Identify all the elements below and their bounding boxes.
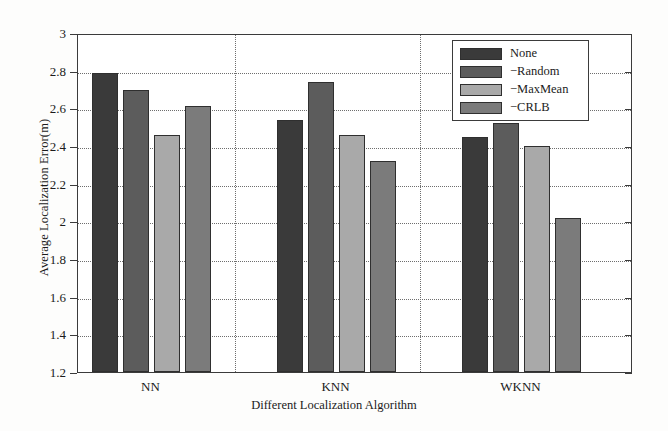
y-tick-label: 1.8	[26, 253, 66, 266]
legend-label: None	[510, 47, 537, 60]
bar	[462, 137, 488, 372]
y-tick-mark	[70, 335, 77, 336]
y-tick-label: 2	[26, 215, 66, 228]
y-tick-mark	[70, 147, 77, 148]
y-tick-mark-right	[625, 298, 632, 299]
legend-label: −MaxMean	[510, 83, 568, 96]
legend-swatch-icon	[460, 84, 502, 96]
y-tick-label: 2.4	[26, 140, 66, 153]
y-tick-mark-right	[625, 373, 632, 374]
legend-swatch-icon	[460, 102, 502, 114]
bar	[185, 106, 211, 372]
y-tick-mark-right	[625, 72, 632, 73]
gridline-vertical	[235, 35, 236, 372]
legend-item[interactable]: −Random	[460, 64, 582, 79]
legend-label: −Random	[510, 65, 559, 78]
y-tick-mark	[70, 222, 77, 223]
bar	[339, 135, 365, 372]
legend-item[interactable]: −CRLB	[460, 100, 582, 115]
y-tick-label: 1.6	[26, 291, 66, 304]
y-tick-mark	[70, 34, 77, 35]
legend-item[interactable]: None	[460, 46, 582, 61]
x-tick-label-knn: KNN	[291, 379, 381, 395]
y-tick-label: 1.2	[26, 366, 66, 379]
y-tick-label: 3	[26, 27, 66, 40]
legend-item[interactable]: −MaxMean	[460, 82, 582, 97]
figure-canvas: Average Localization Error(m) 1.21.41.61…	[0, 0, 668, 431]
x-axis-title: Different Localization Algorithm	[0, 398, 668, 413]
bar	[555, 218, 581, 372]
gridline-vertical	[420, 35, 421, 372]
y-tick-mark-right	[625, 335, 632, 336]
legend-swatch-icon	[460, 66, 502, 78]
y-tick-mark-right	[625, 222, 632, 223]
bar	[123, 90, 149, 373]
y-tick-mark	[70, 298, 77, 299]
y-tick-mark-right	[625, 260, 632, 261]
y-tick-label: 2.2	[26, 178, 66, 191]
y-tick-mark-right	[625, 147, 632, 148]
bar	[524, 146, 550, 372]
y-tick-label: 1.4	[26, 328, 66, 341]
x-tick-label-wknn: WKNN	[476, 379, 566, 395]
bar	[92, 73, 118, 372]
y-tick-label: 2.8	[26, 65, 66, 78]
bar	[370, 161, 396, 372]
y-tick-mark	[70, 109, 77, 110]
bar	[493, 123, 519, 372]
y-tick-mark-right	[625, 34, 632, 35]
y-tick-label: 2.6	[26, 102, 66, 115]
x-tick-label-nn: NN	[106, 379, 196, 395]
y-tick-mark	[70, 260, 77, 261]
chart-legend: None−Random−MaxMean−CRLB	[452, 40, 589, 121]
legend-label: −CRLB	[510, 101, 550, 114]
y-tick-mark-right	[625, 109, 632, 110]
legend-swatch-icon	[460, 48, 502, 60]
bar	[154, 135, 180, 372]
y-tick-mark	[70, 72, 77, 73]
y-tick-mark	[70, 373, 77, 374]
bar	[277, 120, 303, 372]
y-tick-mark-right	[625, 185, 632, 186]
y-tick-mark	[70, 185, 77, 186]
bar	[308, 82, 334, 372]
